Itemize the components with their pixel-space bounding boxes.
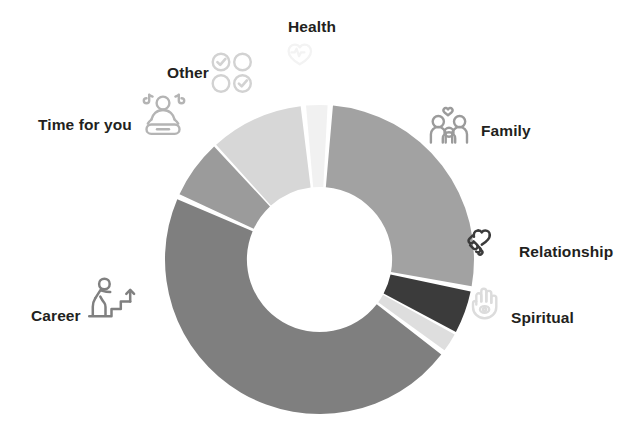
donut-chart-infographic: Health Other Time for you [0, 0, 638, 441]
legend-item-health[interactable]: Health [288, 18, 336, 64]
legend-item-relationship[interactable]: Relationship [469, 231, 614, 261]
legend-item-other[interactable]: Other [167, 54, 251, 92]
legend-label-time-for-you: Time for you [38, 116, 132, 133]
legend-item-family[interactable]: Family [431, 108, 531, 143]
family-heart-icon [431, 108, 467, 143]
meditation-music-icon [144, 95, 184, 134]
chart-canvas: Health Other Time for you [0, 0, 638, 441]
legend-label-spiritual: Spiritual [511, 309, 574, 326]
legend-label-relationship: Relationship [519, 243, 613, 260]
legend-label-family: Family [481, 122, 531, 139]
legend-item-career[interactable]: Career [31, 279, 134, 324]
hamsa-hand-icon [473, 289, 496, 319]
legend-item-spiritual[interactable]: Spiritual [473, 289, 574, 326]
heart-pulse-icon [289, 45, 311, 65]
legend-label-other: Other [167, 64, 209, 81]
checklist-circles-icon [213, 54, 251, 92]
legend-label-career: Career [31, 307, 81, 324]
legend-label-health: Health [288, 18, 336, 35]
legend-item-time-for-you[interactable]: Time for you [38, 95, 184, 134]
person-climbing-stairs-icon [89, 279, 134, 317]
donut-slice-group [165, 105, 474, 414]
donut-slice-health[interactable] [306, 105, 328, 187]
